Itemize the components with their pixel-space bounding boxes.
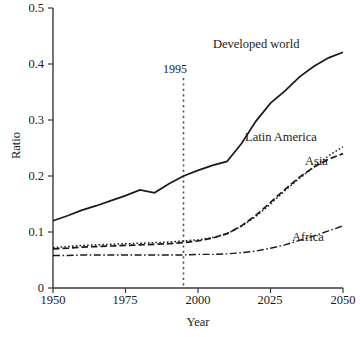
x-tick-label-1950: 1950: [23, 293, 83, 308]
series-label-latin-america: Latin America: [245, 130, 317, 145]
x-tick-label-2025: 2025: [240, 293, 300, 308]
y-tick-label-0.1: 0.1: [4, 225, 44, 240]
series-label-africa: Africa: [292, 230, 324, 245]
series-label-asia: Asia: [305, 154, 328, 169]
x-tick-label-1975: 1975: [95, 293, 155, 308]
y-tick-label-0.4: 0.4: [4, 57, 44, 72]
x-tick-label-2050: 2050: [313, 293, 360, 308]
y-axis-ticks: [48, 8, 53, 288]
series-label-developed-world: Developed world: [213, 37, 299, 52]
annotation-label-1995: 1995: [163, 62, 187, 77]
y-tick-label-0.5: 0.5: [4, 1, 44, 16]
x-tick-label-2000: 2000: [168, 293, 228, 308]
x-axis-title: Year: [168, 315, 228, 330]
y-axis-title: Ratio: [9, 116, 24, 176]
